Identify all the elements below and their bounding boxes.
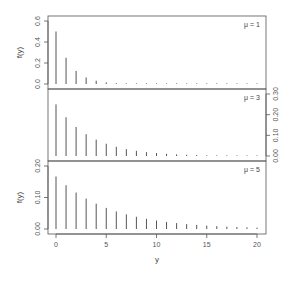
x-tick-label: 20 — [253, 241, 261, 248]
panel-frame — [48, 16, 266, 89]
panel-2: 0.000.100.200.30μ = 3 — [48, 87, 279, 163]
panel-label: μ = 3 — [244, 94, 260, 102]
panels: 0.00.20.40.6f(y)μ = 10.000.100.200.30μ =… — [15, 16, 279, 236]
y-tick-label: 0.2 — [34, 58, 41, 68]
figure: 0.00.20.40.6f(y)μ = 10.000.100.200.30μ =… — [0, 0, 292, 283]
panel-1: 0.00.20.40.6f(y)μ = 1 — [15, 16, 266, 89]
panel-label: μ = 1 — [244, 21, 260, 29]
y-tick-label: 0.4 — [34, 37, 41, 47]
y-tick-label: 0.00 — [272, 149, 279, 163]
x-tick-label: 5 — [104, 241, 108, 248]
panel-label: μ = 5 — [244, 166, 260, 174]
y-tick-label: 0.10 — [272, 128, 279, 142]
x-tick-label: 15 — [203, 241, 211, 248]
y-axis-title: f(y) — [15, 191, 24, 203]
y-tick-label: 0.20 — [34, 159, 41, 173]
y-tick-label: 0.20 — [272, 108, 279, 122]
x-tick-label: 10 — [153, 241, 161, 248]
y-tick-label: 0.30 — [272, 87, 279, 101]
y-tick-label: 0.10 — [34, 191, 41, 205]
y-axis-title: f(y) — [15, 46, 24, 58]
y-tick-label: 0.00 — [34, 222, 41, 236]
panel-frame — [48, 89, 266, 161]
x-axis-title: y — [155, 255, 159, 264]
y-tick-label: 0.6 — [34, 16, 41, 26]
panel-3: 0.000.100.20f(y)μ = 5 — [15, 159, 266, 236]
x-tick-label: 0 — [54, 241, 58, 248]
x-axis: 05101520 — [54, 234, 261, 248]
y-tick-label: 0.0 — [34, 79, 41, 89]
